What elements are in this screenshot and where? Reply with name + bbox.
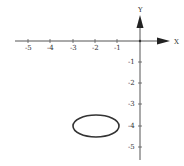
x-tick-label: -2 — [92, 44, 99, 52]
coordinate-plane: X Y -5 -4 -3 -2 -1 -1 -2 -3 -4 -5 — [0, 0, 184, 166]
x-tick-label: -1 — [114, 44, 121, 52]
y-tick-label: -4 — [128, 122, 135, 130]
origin-point — [139, 40, 141, 42]
x-tick-label: -3 — [70, 44, 77, 52]
y-axis-arrow-icon — [137, 15, 144, 28]
x-tick-label: -5 — [25, 44, 32, 52]
y-tick-label: -2 — [128, 79, 135, 87]
x-axis-arrow-icon — [157, 38, 170, 45]
y-tick-label: -1 — [128, 58, 135, 66]
ellipse-shape — [73, 115, 119, 137]
y-tick-label: -3 — [128, 100, 135, 108]
y-axis-label: Y — [137, 6, 143, 14]
x-axis-label: X — [174, 38, 179, 46]
x-tick-label: -4 — [47, 44, 54, 52]
y-tick-label: -5 — [128, 143, 135, 151]
